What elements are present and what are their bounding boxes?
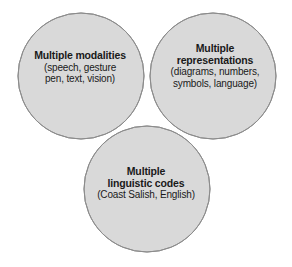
- label-multiple-modalities: Multiple modalities (speech, gesture pen…: [12, 50, 148, 85]
- label-modalities-line1: Multiple modalities: [12, 50, 148, 62]
- venn-diagram-graphic: [0, 0, 292, 267]
- label-representations-line2: representations: [146, 55, 284, 67]
- label-linguistic-line1: Multiple: [78, 166, 214, 178]
- label-representations-line4: symbols, language): [146, 78, 284, 90]
- label-multiple-linguistic-codes: Multiple linguistic codes (Coast Salish,…: [78, 166, 214, 201]
- label-representations-line1: Multiple: [146, 43, 284, 55]
- label-modalities-line2: (speech, gesture: [12, 62, 148, 74]
- label-modalities-line3: pen, text, vision): [12, 73, 148, 85]
- venn-diagram-figure: Multiple modalities (speech, gesture pen…: [0, 0, 292, 267]
- label-multiple-representations: Multiple representations (diagrams, numb…: [146, 43, 284, 89]
- label-representations-line3: (diagrams, numbers,: [146, 66, 284, 78]
- label-linguistic-line3: (Coast Salish, English): [78, 189, 214, 201]
- label-linguistic-line2: linguistic codes: [78, 178, 214, 190]
